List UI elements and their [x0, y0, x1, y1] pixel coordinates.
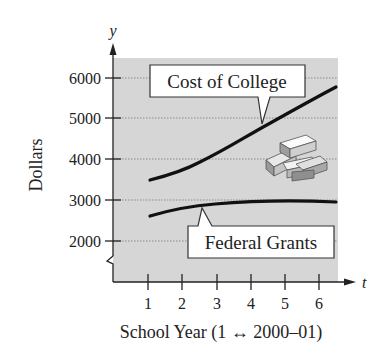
y-axis-arrow-icon — [110, 43, 117, 55]
y-tick-label: 2000 — [69, 233, 101, 250]
y-variable-label: y — [107, 22, 117, 40]
x-variable-label: t — [362, 274, 367, 291]
y-tick-labels: 6000 5000 4000 3000 2000 — [69, 70, 101, 250]
y-tick-label: 6000 — [69, 70, 101, 87]
x-tick-label: 3 — [213, 295, 221, 312]
y-tick-label: 4000 — [69, 151, 101, 168]
x-axis-title: School Year (1 ↔ 2000–01) — [120, 322, 323, 343]
chart: 6000 5000 4000 3000 2000 1 2 3 4 5 6 y t… — [0, 0, 385, 363]
x-tick-label: 5 — [281, 295, 289, 312]
x-tick-label: 4 — [247, 295, 255, 312]
x-axis-arrow-icon — [344, 279, 356, 286]
y-tick-label: 5000 — [69, 110, 101, 127]
x-tick-label: 2 — [178, 295, 186, 312]
y-tick-label: 3000 — [69, 192, 101, 209]
x-tick-label: 1 — [144, 295, 152, 312]
y-axis-title: Dollars — [26, 139, 46, 192]
federal-grants-label: Federal Grants — [205, 232, 317, 253]
x-tick-label: 6 — [315, 295, 323, 312]
x-tick-labels: 1 2 3 4 5 6 — [144, 295, 323, 312]
cost-of-college-label: Cost of College — [167, 71, 286, 92]
